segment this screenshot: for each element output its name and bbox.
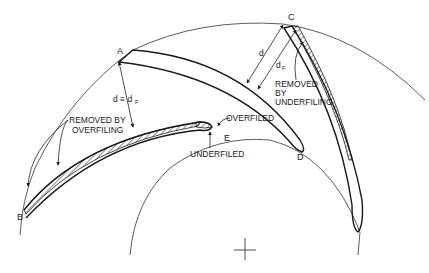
underfiling-removed-region: [292, 26, 352, 160]
label-removed-overfiling-2: OVERFILING: [72, 125, 123, 135]
label-d-f-sub: F: [282, 65, 286, 71]
point-label-e: E: [224, 133, 230, 143]
point-label-b: B: [17, 212, 23, 222]
dimension-d: [247, 25, 283, 83]
label-removed-overfiling-1: REMOVED BY: [69, 115, 126, 125]
label-underfiled: UNDERFILED: [190, 149, 244, 159]
inner-circle-arc: [130, 139, 360, 255]
center-crosshair: [234, 238, 256, 260]
label-d: d: [259, 48, 264, 58]
label-overfiled: OVERFILED: [226, 113, 274, 123]
label-d-f: d: [276, 60, 281, 70]
label-d-equiv: d ≡ d: [113, 94, 132, 104]
point-label-a: A: [117, 46, 123, 56]
filing-diagram: A B C D E d ≡ d F d d F REMOVED BY OVERF…: [0, 0, 429, 273]
label-d-equiv-sub: F: [135, 99, 139, 105]
point-label-c: C: [288, 12, 295, 22]
point-label-d: D: [297, 152, 304, 162]
label-removed-underfiling-3: UNDERFILING: [275, 97, 333, 107]
overfiled-tip: [196, 122, 212, 128]
